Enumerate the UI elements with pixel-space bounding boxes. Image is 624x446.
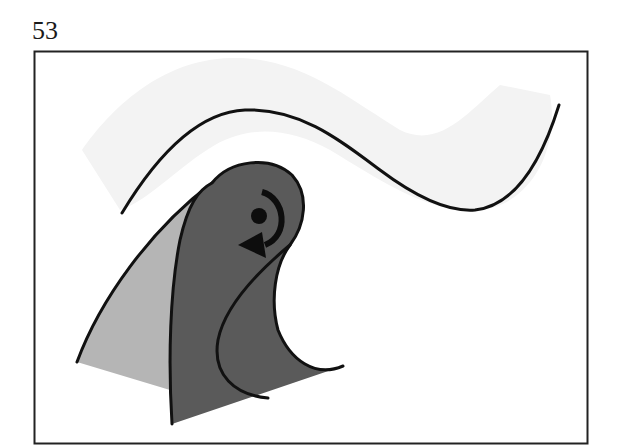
wave-band [82,58,552,211]
pivot-dot-icon [251,208,267,224]
dark-fin [170,163,343,424]
figure-illustration [0,0,624,446]
